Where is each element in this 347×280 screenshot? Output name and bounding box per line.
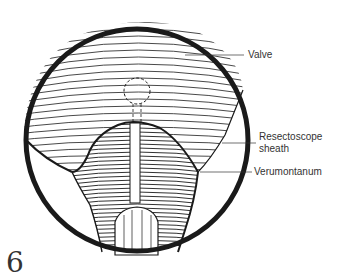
label-valve: Valve: [248, 49, 272, 61]
label-resectoscope: Resectoscope: [259, 131, 322, 143]
scope-rod: [130, 123, 140, 203]
label-verumontanum: Verumontanum: [254, 166, 322, 178]
figure-number: 6: [6, 248, 24, 278]
valve-outline: [198, 90, 243, 172]
label-sheath: sheath: [259, 143, 289, 155]
dashed-loop-icon: [124, 78, 150, 104]
